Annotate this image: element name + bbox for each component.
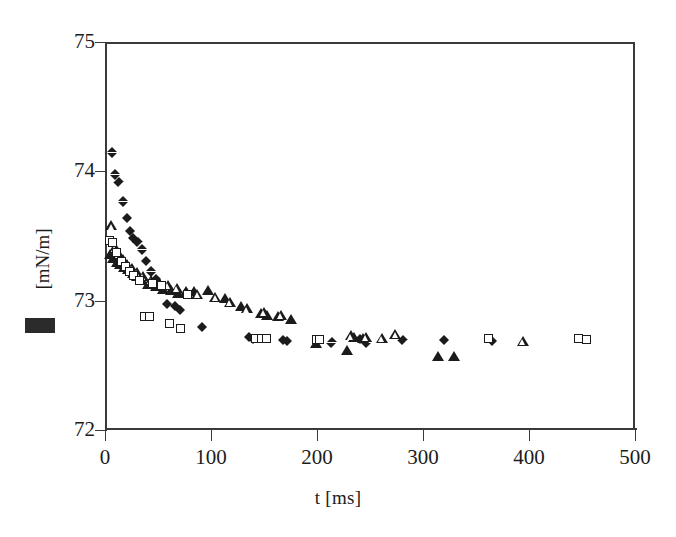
- data-point-filled-diamond: [327, 332, 337, 342]
- data-point-open-square: [484, 334, 493, 343]
- data-point-filled-diamond: [137, 239, 147, 249]
- y-tick-mark: [95, 301, 107, 302]
- data-point-open-triangle: [345, 330, 357, 340]
- data-point-filled-diamond: [175, 300, 185, 310]
- data-point-open-square: [145, 312, 154, 321]
- data-point-open-square: [582, 335, 591, 344]
- data-point-open-square: [262, 334, 271, 343]
- y-axis-symbol-redacted-block: [25, 318, 55, 333]
- y-tick-label: 72: [51, 419, 95, 440]
- data-point-open-square: [135, 276, 144, 285]
- y-tick-label-wrap: 73: [0, 290, 95, 311]
- data-point-open-square: [112, 248, 121, 257]
- y-tick-label-wrap: 72: [0, 419, 95, 440]
- data-point-open-square: [183, 290, 192, 299]
- x-tick-label: 500: [600, 446, 670, 468]
- x-axis-line: [105, 428, 637, 430]
- y-tick-label: 73: [51, 290, 95, 311]
- data-point-open-square: [165, 319, 174, 328]
- surface-tension-scatter-chart: [mN/m] t [ms] 727374750100200300400500: [0, 0, 676, 537]
- data-point-open-square: [176, 324, 185, 333]
- data-point-open-triangle: [275, 310, 287, 320]
- x-tick-label: 0: [70, 446, 140, 468]
- data-point-open-triangle: [517, 336, 529, 346]
- data-point-filled-diamond: [141, 251, 151, 261]
- x-tick-mark: [105, 430, 106, 441]
- data-point-filled-diamond: [282, 331, 292, 341]
- x-tick-label: 100: [176, 446, 246, 468]
- x-tick-mark: [317, 430, 318, 441]
- x-tick-label: 400: [494, 446, 564, 468]
- x-tick-label: 300: [388, 446, 458, 468]
- data-point-open-triangle: [191, 289, 203, 299]
- y-tick-label: 74: [51, 160, 95, 181]
- right-axis-line: [633, 42, 635, 430]
- y-tick-label-wrap: 75: [0, 31, 95, 52]
- data-point-open-triangle: [389, 329, 401, 339]
- data-point-filled-triangle: [448, 351, 460, 361]
- data-point-filled-triangle: [432, 351, 444, 361]
- y-tick-label: 75: [51, 31, 95, 52]
- data-point-open-square: [157, 281, 166, 290]
- data-point-open-triangle: [224, 297, 236, 307]
- y-tick-mark: [95, 171, 107, 172]
- x-tick-mark: [423, 430, 424, 441]
- data-point-filled-triangle: [341, 345, 353, 355]
- y-tick-mark: [95, 42, 107, 43]
- data-point-open-triangle: [258, 307, 270, 317]
- data-point-open-square: [108, 238, 117, 247]
- x-axis-title: t [ms]: [0, 487, 676, 509]
- y-tick-label-wrap: 74: [0, 160, 95, 181]
- data-point-filled-diamond: [197, 317, 207, 327]
- data-point-filled-diamond: [107, 142, 117, 152]
- data-point-open-triangle: [105, 220, 117, 230]
- data-point-open-triangle: [360, 332, 372, 342]
- data-point-filled-diamond: [439, 330, 449, 340]
- data-point-open-square: [315, 335, 324, 344]
- x-tick-mark: [635, 430, 636, 441]
- x-tick-label: 200: [282, 446, 352, 468]
- data-point-filled-diamond: [122, 208, 132, 218]
- data-point-open-triangle: [209, 292, 221, 302]
- data-point-filled-diamond: [118, 191, 128, 201]
- data-point-open-triangle: [241, 303, 253, 313]
- x-tick-mark: [211, 430, 212, 441]
- data-point-open-triangle: [376, 333, 388, 343]
- data-point-filled-diamond: [114, 172, 124, 182]
- plot-area: [105, 42, 635, 430]
- x-tick-mark: [529, 430, 530, 441]
